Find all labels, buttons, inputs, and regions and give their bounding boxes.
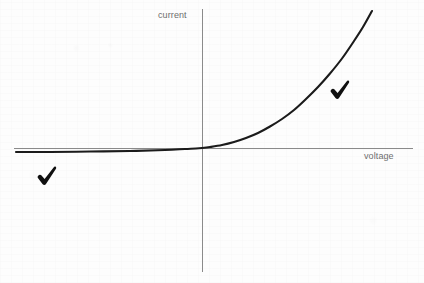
iv-characteristic-curve	[16, 11, 372, 152]
checkmark-forward-bias	[331, 81, 350, 99]
x-axis-label-voltage: voltage	[364, 151, 394, 162]
plot-canvas	[0, 0, 424, 283]
checkmark-reverse-bias	[38, 167, 57, 185]
y-axis-label-current: current	[158, 10, 187, 21]
checkmark-icon	[38, 167, 57, 185]
diode-iv-curve-figure: current voltage	[0, 0, 424, 283]
annotation-layer	[38, 81, 350, 185]
checkmark-icon	[331, 81, 350, 99]
